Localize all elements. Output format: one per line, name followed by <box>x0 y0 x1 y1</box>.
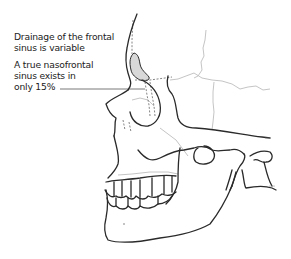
ear-region-marks <box>123 137 274 224</box>
frontal-sinus <box>130 53 149 81</box>
skull-outline <box>105 14 276 242</box>
skull-illustration <box>0 0 291 259</box>
